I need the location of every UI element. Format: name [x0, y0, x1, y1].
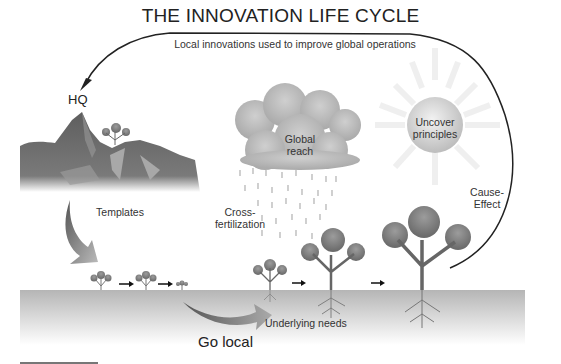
go-local-label: Go local [198, 333, 253, 350]
top-arrow-label: Local innovations used to improve global… [165, 38, 425, 50]
hq-label: HQ [68, 92, 88, 107]
sun-label-line1: Uncover [400, 116, 470, 128]
cloud-label-line2: reach [270, 145, 330, 157]
cause-effect-label: Cause- Effect [462, 186, 512, 210]
cloud-label-line1: Global [270, 133, 330, 145]
underlying-needs-label: Underlying needs [265, 317, 365, 329]
cross-line1: Cross- [205, 206, 275, 218]
diagram-title: THE INNOVATION LIFE CYCLE [0, 5, 561, 27]
cause-effect-line1: Cause- [462, 186, 512, 198]
mountain-hq [20, 112, 200, 192]
sun-label: Uncover principles [400, 116, 470, 140]
cloud-label: Global reach [270, 133, 330, 157]
cause-effect-line2: Effect [462, 198, 512, 210]
seedlings [91, 271, 189, 290]
templates-label: Templates [85, 206, 155, 218]
diagram-artwork [0, 0, 561, 364]
cross-line2: fertilization [205, 218, 275, 230]
cross-fertilization-label: Cross- fertilization [205, 206, 275, 230]
sun-label-line2: principles [400, 128, 470, 140]
